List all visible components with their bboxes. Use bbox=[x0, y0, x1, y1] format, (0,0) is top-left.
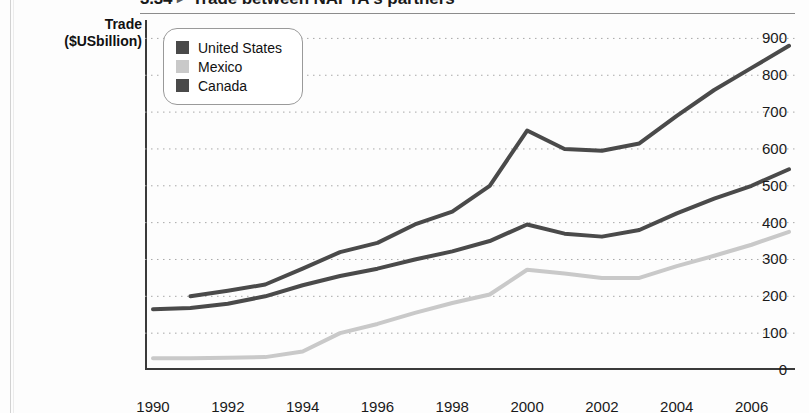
y-axis-tick-label: 800 bbox=[707, 67, 787, 82]
figure-container: 3.34►Trade between NAFTA's partners Trad… bbox=[0, 0, 809, 413]
y-axis-tick-label: 200 bbox=[707, 288, 787, 303]
x-axis-tick-label: 1996 bbox=[347, 398, 407, 413]
figure-number: 3.34 bbox=[140, 0, 172, 8]
legend-swatch-united-states bbox=[176, 41, 189, 54]
page-edge-rule-secondary bbox=[13, 0, 14, 413]
x-axis-tick-label: 2004 bbox=[647, 398, 707, 413]
legend-swatch-mexico bbox=[176, 60, 189, 73]
legend-label-mexico: Mexico bbox=[198, 59, 242, 75]
legend-item-canada: Canada bbox=[176, 76, 282, 95]
y-axis-tick-label: 500 bbox=[707, 178, 787, 193]
figure-title-text: Trade between NAFTA's partners bbox=[192, 0, 454, 8]
legend-item-mexico: Mexico bbox=[176, 57, 282, 76]
x-axis-tick-label: 2002 bbox=[572, 398, 632, 413]
legend-item-united-states: United States bbox=[176, 38, 282, 57]
y-axis-tick-label: 900 bbox=[707, 30, 787, 45]
legend-label-united-states: United States bbox=[198, 40, 282, 56]
x-axis-tick-label: 1998 bbox=[422, 398, 482, 413]
x-axis-tick-label: 2000 bbox=[497, 398, 557, 413]
title-divider bbox=[140, 13, 795, 14]
plot-area: 0100200300400500600700800900 19901992199… bbox=[145, 20, 795, 370]
y-axis-title: Trade ($USbillion) bbox=[10, 16, 142, 50]
chart-legend: United States Mexico Canada bbox=[163, 28, 303, 105]
y-axis-tick-label: 300 bbox=[707, 251, 787, 266]
x-axis-tick-label: 1994 bbox=[273, 398, 333, 413]
triangle-right-icon: ► bbox=[174, 0, 187, 6]
y-axis-tick-label: 600 bbox=[707, 141, 787, 156]
x-axis-tick-label: 1992 bbox=[198, 398, 258, 413]
legend-label-canada: Canada bbox=[198, 78, 247, 94]
y-axis-tick-label: 700 bbox=[707, 104, 787, 119]
y-axis-tick-label: 0 bbox=[707, 362, 787, 377]
figure-title: 3.34►Trade between NAFTA's partners bbox=[140, 0, 780, 13]
legend-swatch-canada bbox=[176, 79, 189, 92]
series-line-mexico bbox=[153, 232, 789, 358]
y-axis-tick-label: 100 bbox=[707, 325, 787, 340]
x-axis-tick-label: 1990 bbox=[123, 398, 183, 413]
y-axis-title-line2: ($USbillion) bbox=[10, 33, 142, 50]
page-edge-rule bbox=[10, 0, 11, 413]
x-axis-tick-label: 2006 bbox=[722, 398, 782, 413]
y-axis-title-line1: Trade bbox=[10, 16, 142, 33]
y-axis-tick-label: 400 bbox=[707, 215, 787, 230]
